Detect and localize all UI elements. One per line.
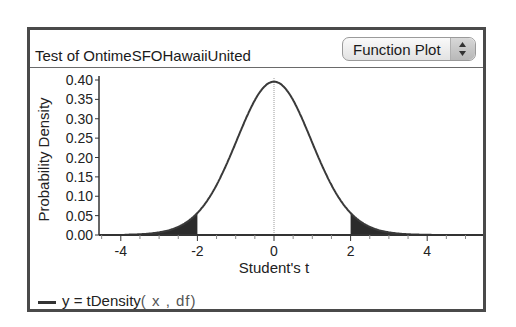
x-axis-label: Student's t (239, 259, 310, 276)
y-tick-label: 0.25 (66, 130, 93, 146)
x-tick-label: -2 (191, 243, 204, 259)
x-tick-label: -4 (115, 243, 128, 259)
legend-args: ( x , df) (141, 292, 197, 309)
y-tick-label: 0.30 (66, 111, 93, 127)
legend: y = tDensity( x , df) (38, 292, 196, 309)
x-tick-label: 2 (347, 243, 355, 259)
legend-prefix: y = (62, 292, 87, 309)
t-density-curve (125, 82, 435, 235)
y-tick-label: 0.35 (66, 91, 93, 107)
legend-function: tDensity (87, 292, 141, 309)
y-tick-label: 0.20 (66, 150, 93, 166)
legend-line-swatch (38, 301, 56, 304)
x-tick-label: 0 (270, 243, 278, 259)
x-tick-label: 4 (423, 243, 431, 259)
y-tick-label: 0.40 (66, 72, 93, 88)
y-tick-label: 0.15 (66, 169, 93, 185)
plot-panel: Test of OntimeSFOHawaiiUnited Function P… (27, 27, 486, 312)
y-tick-label: 0.10 (66, 188, 93, 204)
y-axis-label: Probability Density (35, 97, 52, 222)
y-tick-label: 0.05 (66, 208, 93, 224)
t-density-chart: 0.000.050.100.150.200.250.300.350.40-4-2… (30, 30, 483, 309)
y-tick-label: 0.00 (66, 227, 93, 243)
